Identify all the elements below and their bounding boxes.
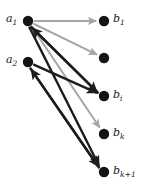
node-label-subscript: 1: [120, 18, 125, 27]
node-label-b1: b1: [113, 13, 125, 24]
graph-node: [99, 16, 109, 26]
node-label-base: b: [113, 126, 120, 139]
graph-figure: a1a2b1bibkbk+1: [0, 0, 146, 191]
graph-node: [99, 91, 109, 101]
node-label-subscript: k: [120, 132, 125, 141]
node-label-bi: bi: [113, 89, 123, 100]
node-label-base: b: [113, 164, 120, 177]
graph-edge: [31, 26, 99, 128]
node-label-bk1: bk+1: [113, 165, 136, 176]
node-label-a1: a1: [6, 13, 17, 24]
node-label-subscript: 2: [13, 59, 18, 68]
node-label-subscript: k+1: [120, 170, 136, 179]
edge-layer: [29, 21, 100, 168]
graph-node: [99, 129, 109, 139]
graph-canvas: [0, 0, 146, 191]
graph-edge: [29, 27, 99, 166]
node-label-a2: a2: [6, 54, 17, 65]
graph-node: [99, 167, 109, 177]
graph-node: [99, 53, 109, 63]
node-label-base: b: [113, 88, 120, 101]
graph-edge: [33, 64, 97, 92]
graph-node: [23, 16, 33, 26]
graph-node: [23, 57, 33, 67]
node-label-subscript: 1: [13, 18, 18, 27]
node-label-bk: bk: [113, 127, 125, 138]
node-label-base: a: [6, 53, 13, 66]
node-label-base: b: [113, 12, 120, 25]
node-label-subscript: i: [120, 94, 123, 103]
node-label-base: a: [6, 12, 13, 25]
